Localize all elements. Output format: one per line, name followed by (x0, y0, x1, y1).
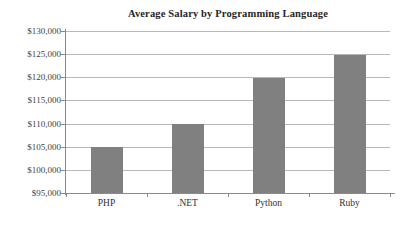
y-axis-tick-label: $100,000 (27, 165, 61, 175)
x-axis-category-label: PHP (66, 198, 147, 208)
x-axis-tick-mark (147, 193, 148, 197)
gridline (66, 31, 390, 32)
x-axis-category-label: .NET (147, 198, 228, 208)
bar-chart-figure: Average Salary by Programming Language $… (0, 0, 410, 234)
bar-php (91, 147, 123, 193)
bar-net (172, 124, 204, 193)
x-axis-category-label: Python (228, 198, 309, 208)
x-axis-tick-mark (390, 193, 391, 197)
x-axis-tick-mark (66, 193, 67, 197)
x-axis-tick-mark (228, 193, 229, 197)
chart-title: Average Salary by Programming Language (66, 8, 390, 19)
y-axis-tick-label: $95,000 (32, 188, 61, 198)
y-axis-tick-label: $105,000 (27, 142, 61, 152)
y-axis-tick-label: $115,000 (28, 95, 61, 105)
y-axis-tick-label: $125,000 (27, 49, 61, 59)
y-axis-tick-label: $120,000 (27, 72, 61, 82)
plot-area (66, 31, 390, 193)
y-axis-tick-labels: $130,000$125,000$120,000$115,000$110,000… (0, 0, 61, 234)
y-axis-tick-label: $130,000 (27, 26, 61, 36)
bar-ruby (334, 55, 366, 193)
y-axis-tick-label: $110,000 (28, 119, 61, 129)
x-axis-tick-mark (309, 193, 310, 197)
x-axis-category-label: Ruby (309, 198, 390, 208)
bar-python (253, 78, 285, 193)
